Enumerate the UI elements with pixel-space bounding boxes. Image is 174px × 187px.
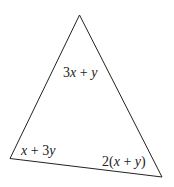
angle-label-top: 3x + y [63, 65, 98, 80]
triangle-diagram: 3x + y x + 3y 2(x + y) [0, 0, 174, 187]
angle-label-bottom-left: x + 3y [20, 143, 56, 158]
angle-label-bottom-right: 2(x + y) [102, 154, 146, 170]
